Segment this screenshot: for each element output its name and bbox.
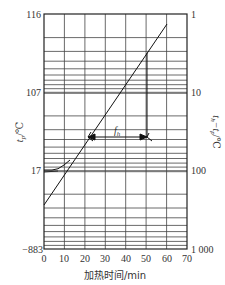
left-axis-title: tp/℃	[14, 122, 27, 142]
left-tick-3: −883	[22, 244, 43, 255]
fh-annotation	[88, 53, 152, 141]
left-axis-ticks: 116 107 17 −883	[22, 9, 43, 255]
lag-curve-segment	[44, 160, 70, 170]
right-tick-1: 10	[191, 87, 201, 98]
left-tick-2: 17	[31, 165, 41, 176]
x-tick-4: 40	[121, 253, 131, 264]
x-tick-1: 10	[59, 253, 69, 264]
x-tick-5: 50	[141, 253, 151, 264]
x-tick-3: 30	[100, 253, 110, 264]
left-tick-0: 116	[26, 9, 41, 20]
x-tick-7: 70	[182, 253, 192, 264]
left-tick-1: 107	[26, 87, 41, 98]
x-tick-6: 60	[162, 253, 172, 264]
x-axis-title: 加热时间/min	[84, 269, 146, 281]
x-tick-0: 0	[42, 253, 47, 264]
right-tick-2: 100	[191, 165, 206, 176]
fh-label: fh	[114, 125, 121, 138]
heat-penetration-chart: fh 116 107 17 −883 1 10 100 1 000 0 10 2…	[0, 0, 225, 285]
right-axis-title: th−tp/℃	[209, 115, 222, 148]
x-tick-2: 20	[80, 253, 90, 264]
x-axis-ticks: 0 10 20 30 40 50 60 70	[42, 253, 193, 264]
right-tick-3: 1 000	[191, 244, 214, 255]
right-tick-0: 1	[191, 9, 196, 20]
